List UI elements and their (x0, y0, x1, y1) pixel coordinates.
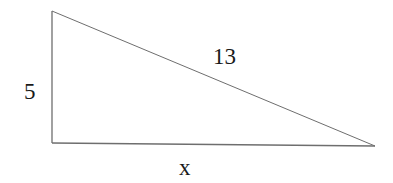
hypotenuse-label: 13 (213, 45, 236, 68)
vertical-leg-label: 5 (24, 80, 36, 103)
right-triangle-diagram (0, 0, 393, 183)
horizontal-leg-label: x (179, 156, 191, 179)
horizontal-leg-line (52, 143, 375, 146)
hypotenuse-line (52, 11, 375, 146)
